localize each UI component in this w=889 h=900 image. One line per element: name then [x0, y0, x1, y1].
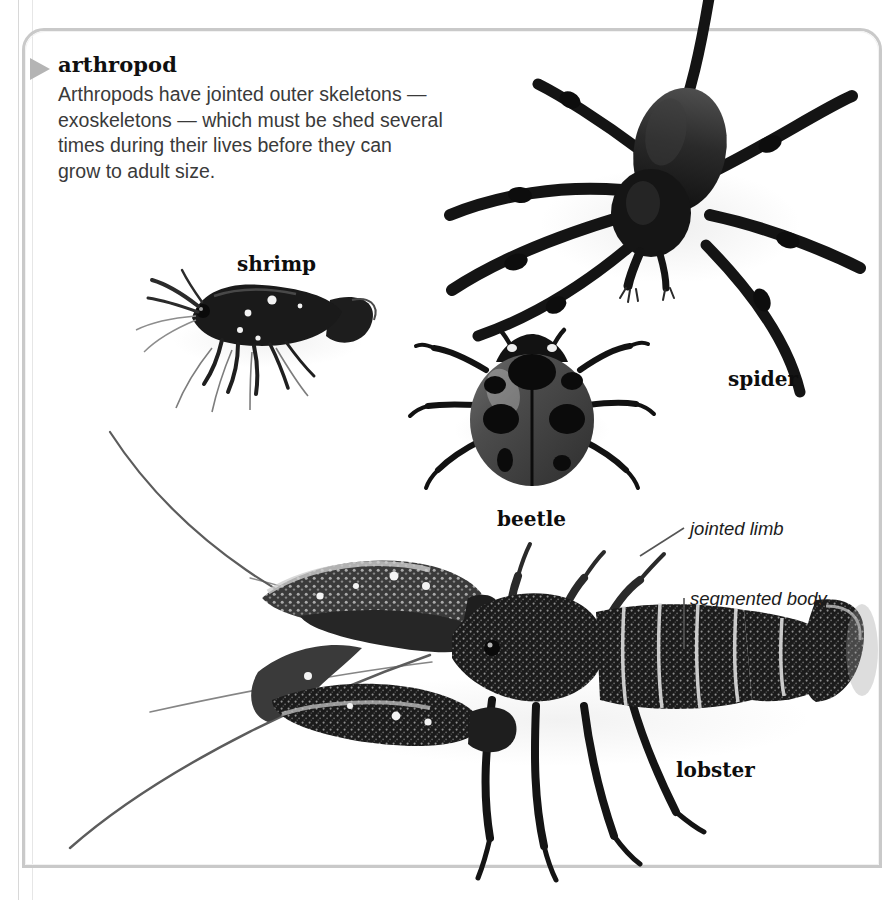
entry-title: arthropod: [58, 52, 177, 77]
margin-rule-outer: [18, 0, 19, 900]
entry-line-4: grow to adult size.: [58, 159, 478, 185]
label-beetle: beetle: [497, 507, 566, 531]
annotation-jointed-limb: jointed limb: [690, 518, 784, 540]
annotation-segmented-body: segmented body: [690, 588, 827, 610]
entry-line-2: exoskeletons — which must be shed severa…: [58, 108, 478, 134]
triangle-right-icon: [30, 58, 50, 80]
label-shrimp: shrimp: [237, 252, 316, 276]
label-spider: spider: [728, 367, 798, 391]
entry-description: Arthropods have jointed outer skeletons …: [58, 82, 478, 184]
illustration-page: arthropod Arthropods have jointed outer …: [0, 0, 889, 900]
entry-line-1: Arthropods have jointed outer skeletons …: [58, 82, 478, 108]
entry-line-3: times during their lives before they can: [58, 133, 478, 159]
label-lobster: lobster: [676, 758, 755, 782]
